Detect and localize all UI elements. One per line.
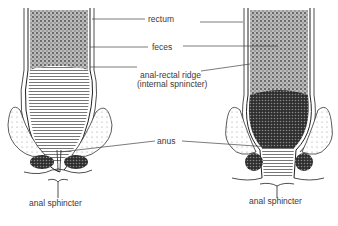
diagram-drawing <box>0 0 338 226</box>
anatomy-diagram: rectum feces anal-rectal ridge (internal… <box>0 0 338 226</box>
label-anal-sphincter-right: anal sphincter <box>249 197 302 206</box>
label-feces: feces <box>152 43 172 52</box>
label-anus: anus <box>157 137 175 146</box>
label-rectum: rectum <box>148 15 174 24</box>
label-anal-sphincter-left: anal sphincter <box>29 199 82 208</box>
label-ridge-line2: (internal spnincter) <box>137 80 207 89</box>
left-rectum-illustration <box>8 8 112 198</box>
right-rectum-illustration <box>226 8 333 198</box>
